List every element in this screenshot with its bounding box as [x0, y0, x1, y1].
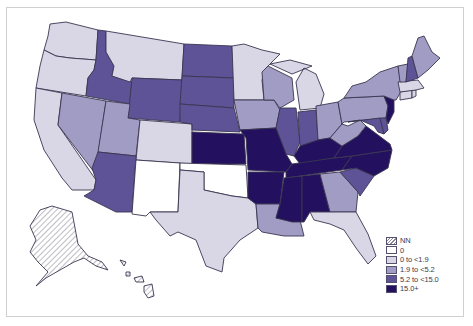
legend-label: 15.0+ — [400, 284, 418, 293]
legend-label: NN — [400, 236, 411, 245]
state-NY — [344, 66, 402, 100]
state-KS — [192, 132, 246, 164]
legend-swatch — [386, 266, 397, 274]
legend-item-high: 5.2 to <15.0 — [386, 274, 466, 284]
legend-item-NN: NN — [386, 236, 466, 246]
state-WY — [128, 78, 182, 122]
state-MT — [106, 31, 184, 82]
legend-item-zero: 0 — [386, 246, 466, 256]
state-AK — [30, 206, 108, 286]
state-IA — [234, 100, 280, 130]
legend-swatch — [386, 275, 397, 283]
legend-label: 0 to <1.9 — [400, 255, 429, 264]
legend-item-mid: 1.9 to <5.2 — [386, 265, 466, 275]
legend-label: 0 — [400, 246, 404, 255]
state-FL — [310, 212, 376, 264]
state-ME — [412, 36, 440, 78]
state-HI — [120, 260, 154, 298]
map-legend: NN00 to <1.91.9 to <5.25.2 to <15.015.0+ — [386, 236, 466, 294]
legend-label: 5.2 to <15.0 — [400, 275, 439, 284]
state-AR — [248, 172, 284, 204]
state-ND — [182, 44, 234, 78]
legend-item-top: 15.0+ — [386, 284, 466, 294]
state-NM — [132, 160, 180, 216]
legend-item-low: 0 to <1.9 — [386, 255, 466, 265]
state-SD — [180, 76, 234, 108]
legend-swatch — [386, 246, 397, 254]
legend-label: 1.9 to <5.2 — [400, 265, 435, 274]
legend-swatch — [386, 237, 397, 245]
state-RI — [412, 90, 416, 98]
state-CO — [136, 120, 192, 164]
legend-swatch — [386, 285, 397, 293]
legend-swatch — [386, 256, 397, 264]
